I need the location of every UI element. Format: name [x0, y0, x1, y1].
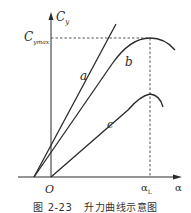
- y-axis-arrow-icon: [49, 12, 54, 20]
- origin-label: O: [45, 184, 54, 195]
- figure-title: 升力曲线示意图: [84, 202, 158, 213]
- curve-a: [34, 24, 116, 177]
- curve-b: [34, 38, 175, 177]
- curve-c: [51, 94, 163, 177]
- alpha-l-label: αL: [141, 183, 152, 195]
- x-axis-arrow-icon: [173, 175, 182, 180]
- x-axis: [18, 175, 182, 180]
- cymax-label: Cymax: [24, 31, 49, 45]
- x-axis-label: α: [175, 183, 182, 193]
- curve-c-label: c: [107, 119, 113, 130]
- y-axis-label: Cy: [56, 11, 69, 26]
- curve-b-label: b: [125, 56, 133, 68]
- curve-a-label: a: [80, 70, 87, 82]
- alpha-l-label-text: α: [141, 182, 148, 193]
- alpha-l-label-sub: L: [148, 188, 152, 195]
- cymax-label-text: C: [24, 30, 33, 44]
- y-axis-label-sub: y: [65, 18, 69, 26]
- figure-number: 图 2-23: [33, 202, 72, 213]
- y-axis-label-text: C: [56, 10, 65, 24]
- cymax-label-sub: ymax: [33, 38, 49, 45]
- figure-caption: 图 2-23 升力曲线示意图: [0, 199, 191, 213]
